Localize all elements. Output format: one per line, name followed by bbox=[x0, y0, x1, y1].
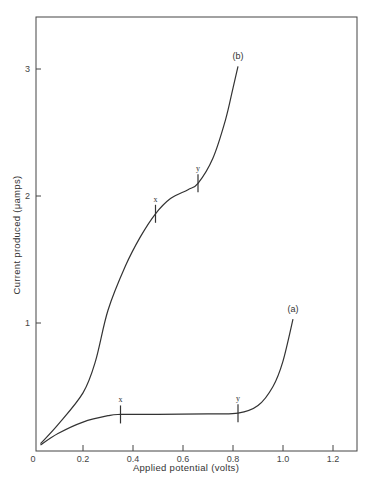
marker-y-label: y bbox=[196, 164, 200, 173]
y-tick-label: 3 bbox=[25, 64, 30, 74]
x-tick-label: 1.2 bbox=[327, 454, 340, 464]
x-tick-label: 0 bbox=[30, 454, 35, 464]
curves: (a)xy(b)xy bbox=[41, 51, 299, 444]
y-axis: 123 bbox=[25, 64, 41, 328]
chart: 00.20.40.60.81.01.2 123 (a)xy(b)xy Appli… bbox=[0, 0, 371, 480]
curve-a-label: (a) bbox=[288, 304, 299, 314]
y-tick-label: 2 bbox=[25, 191, 30, 201]
curve-b bbox=[41, 66, 239, 443]
y-tick-label: 1 bbox=[25, 318, 30, 328]
curve-b-label: (b) bbox=[233, 51, 244, 61]
marker-x-label: x bbox=[119, 395, 123, 404]
x-tick-label: 0.2 bbox=[77, 454, 90, 464]
x-axis-title: Applied potential (volts) bbox=[133, 462, 239, 473]
marker-y-label: y bbox=[236, 394, 240, 403]
plot-frame bbox=[36, 17, 357, 451]
x-tick-label: 1.0 bbox=[277, 454, 290, 464]
curve-a bbox=[41, 319, 294, 445]
marker-x-label: x bbox=[154, 195, 158, 204]
y-axis-title: Current produced (μamps) bbox=[11, 176, 22, 295]
